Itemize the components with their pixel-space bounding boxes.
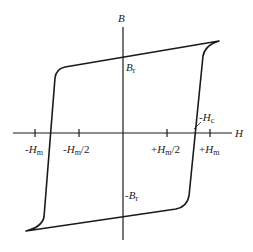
tick-label-pos-hm: +Hm	[199, 143, 220, 157]
tick-suffix: /2	[171, 143, 180, 155]
y-axis-label: B	[118, 12, 125, 24]
remanence-pos-label: Br	[126, 61, 136, 75]
tick-label-neg-hm-half: -Hm/2	[63, 143, 89, 157]
tick-label-neg-hm: -Hm	[25, 143, 44, 157]
coercivity-sub: c	[211, 116, 215, 125]
tick-label-pos-hm-half: +Hm/2	[151, 143, 180, 157]
remanence-neg-label: -Br	[125, 189, 138, 203]
coercivity-label: -Hc	[199, 111, 215, 125]
x-axis-label: H	[234, 127, 244, 139]
remanence-sub: r	[135, 194, 138, 203]
tick-sub: m	[213, 148, 220, 157]
tick-suffix: /2	[81, 143, 90, 155]
tick-sub: m	[37, 148, 44, 157]
hysteresis-diagram: B H -Hm -Hm/2 +Hm/2 +Hm Br -Br -Hc	[0, 0, 253, 252]
remanence-sub: r	[133, 66, 136, 75]
coercivity-leader	[194, 122, 201, 129]
